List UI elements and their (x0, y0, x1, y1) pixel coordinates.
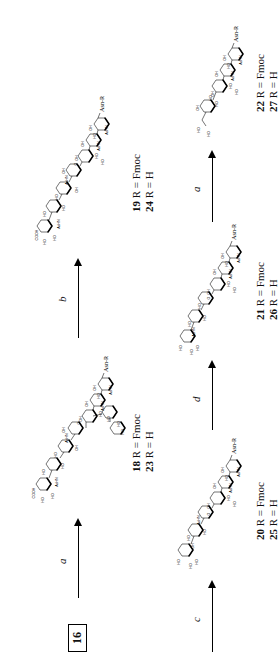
svg-text:HO: HO (203, 529, 207, 535)
terminus-label-19: Asn-R (98, 95, 105, 112)
reaction-arrow-a1 (74, 518, 84, 598)
svg-text:HO: HO (207, 131, 211, 137)
svg-text:AcHN: AcHN (55, 477, 59, 487)
svg-text:HO: HO (233, 287, 237, 293)
reaction-arrow-d (208, 360, 218, 430)
compound-number-23: 23 (143, 461, 155, 472)
svg-text:HO: HO (117, 421, 121, 427)
compound-label-20: 20 R = Fmoc 25 R = H (254, 482, 268, 540)
svg-text:HO: HO (190, 349, 194, 355)
svg-text:HO: HO (227, 63, 231, 69)
svg-text:HO: HO (95, 153, 99, 159)
svg-text:AcHN: AcHN (237, 253, 241, 263)
svg-text:AcHN: AcHN (105, 125, 109, 135)
terminus-label-22: Asn-R (232, 25, 239, 42)
terminus-label-21: Asn-R (230, 223, 237, 240)
svg-text:HO: HO (97, 393, 101, 399)
compound-label-18: 18 R = Fmoc 23 R = H (130, 414, 155, 472)
reaction-arrow-d-label: d (190, 397, 202, 403)
svg-text:HO: HO (62, 205, 66, 211)
svg-text:OH: OH (207, 503, 211, 509)
compound-text-27: R = H (267, 71, 268, 98)
reaction-arrow-c (208, 580, 218, 652)
reaction-arrow-b (74, 258, 84, 338)
svg-text:OH: OH (213, 269, 217, 275)
svg-text:HO: HO (43, 211, 47, 217)
compound-text-19: R = Fmoc (130, 154, 142, 198)
svg-text:O: O (74, 162, 78, 165)
compound-text-26: R = H (267, 279, 268, 306)
svg-text:HO: HO (187, 535, 191, 541)
svg-text:HO: HO (121, 429, 125, 435)
reaction-arrow-b-label: b (56, 297, 68, 303)
compound-number-27: 27 (267, 101, 268, 112)
svg-text:AcHN: AcHN (231, 71, 235, 81)
svg-text:HO: HO (197, 127, 201, 133)
reaction-scheme-figure: 16 a (26, 0, 268, 668)
svg-text:AcHN: AcHN (65, 433, 69, 443)
structure-20: HO HO HO OH HO HO AcHN O OH HO HO OH AcH… (176, 450, 252, 576)
svg-text:OH: OH (75, 187, 79, 193)
svg-text:OH: OH (207, 289, 211, 295)
svg-text:HO: HO (225, 261, 229, 267)
reaction-arrow-c-label: c (190, 617, 202, 622)
reaction-arrow-a1-label: a (56, 559, 68, 565)
svg-text:HO: HO (198, 303, 202, 309)
compound-number-22: 22 (254, 101, 266, 112)
svg-text:AcHN: AcHN (237, 467, 241, 477)
svg-text:AcHN: AcHN (239, 55, 243, 65)
svg-text:O: O (207, 296, 211, 299)
reaction-arrow-a2 (208, 150, 218, 222)
svg-text:OH: OH (196, 105, 200, 111)
compound-text-24: R = H (143, 171, 155, 198)
compound-text-25: R = H (267, 499, 268, 526)
svg-text:HO: HO (107, 416, 111, 422)
svg-text:HO: HO (188, 321, 192, 327)
svg-text:HO: HO (53, 235, 57, 241)
svg-text:OH: OH (191, 543, 195, 549)
svg-text:HO: HO (203, 315, 207, 321)
svg-text:O: O (77, 421, 81, 424)
svg-text:HO: HO (99, 411, 103, 417)
svg-text:HO: HO (225, 475, 229, 481)
svg-text:OH: OH (62, 427, 66, 433)
svg-text:OH: OH (211, 91, 215, 97)
compound-label-21: 21 R = Fmoc 26 R = H (254, 262, 268, 320)
svg-text:HO: HO (195, 559, 199, 565)
compound-label-19: 19 R = Fmoc 24 R = H (130, 154, 155, 212)
svg-text:HO: HO (177, 559, 181, 565)
compound-number-21: 21 (254, 309, 266, 320)
svg-text:O: O (207, 512, 211, 515)
compound-text-20: R = Fmoc (254, 482, 266, 526)
svg-text:OH: OH (85, 401, 89, 407)
svg-text:OH: OH (221, 467, 225, 473)
compound-number-25: 25 (267, 529, 268, 540)
svg-text:OH: OH (75, 155, 79, 161)
svg-text:HO: HO (179, 345, 183, 351)
svg-text:HO: HO (42, 469, 46, 475)
svg-text:HO: HO (233, 501, 237, 507)
svg-text:OH: OH (221, 253, 225, 259)
svg-text:HO: HO (61, 463, 65, 469)
svg-text:OH: OH (75, 445, 79, 451)
svg-text:HO: HO (196, 345, 200, 351)
terminus-label-18: Asn-R (102, 355, 109, 372)
svg-text:HO: HO (215, 101, 219, 107)
svg-text:HO: HO (43, 239, 47, 245)
starting-material-16: 16 (68, 624, 87, 652)
compound-number-26: 26 (267, 309, 268, 320)
svg-text:AcHN: AcHN (109, 385, 113, 395)
compound-number-20: 20 (254, 529, 266, 540)
svg-text:OH: OH (213, 483, 217, 489)
structure-22: HO HO OH HO HO OH HO HO OH AcHN OH AcHN … (188, 36, 254, 146)
svg-text:OH: OH (89, 125, 93, 131)
compound-text-21: R = Fmoc (254, 262, 266, 306)
terminus-label-20: Asn-R (230, 437, 237, 454)
svg-text:AcHN: AcHN (229, 269, 233, 279)
reaction-arrow-a2-label: a (190, 187, 202, 193)
svg-text:HO: HO (55, 194, 59, 200)
svg-text:AcHN: AcHN (57, 219, 61, 229)
compound-number-24: 24 (143, 201, 155, 212)
svg-text:HO: HO (189, 563, 193, 569)
svg-text:OH: OH (79, 416, 83, 422)
